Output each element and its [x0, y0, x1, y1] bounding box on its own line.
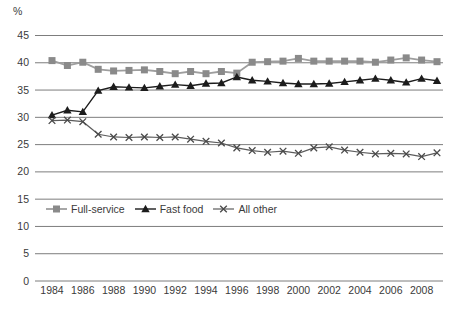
x-tick-label: 2000 [287, 284, 311, 296]
marker-full-service [310, 58, 317, 65]
marker-full-service [403, 54, 410, 61]
y-tick-label: 20 [17, 165, 29, 177]
legend-label: Fast food [160, 203, 204, 215]
x-tick-label: 2002 [318, 284, 342, 296]
x-tick-label: 1992 [164, 284, 188, 296]
marker-full-service [141, 66, 148, 73]
legend-x-marker-icon [213, 203, 234, 215]
y-tick-label: 0 [23, 275, 29, 287]
chart-legend: Full-serviceFast foodAll other [46, 201, 277, 216]
marker-fast-food [63, 106, 71, 113]
x-tick-label: 1998 [256, 284, 280, 296]
x-tick-label: 1986 [71, 284, 95, 296]
legend-item-all-other: All other [213, 203, 277, 215]
x-tick-label: 2004 [348, 284, 372, 296]
x-tick-label: 1994 [194, 284, 218, 296]
x-tick-label: 1996 [225, 284, 249, 296]
marker-full-service [280, 58, 287, 65]
marker-full-service [295, 55, 302, 62]
legend-square-marker-icon [46, 203, 67, 215]
series-line-fast-food [52, 77, 437, 115]
legend-triangle-marker-icon [135, 203, 156, 215]
y-tick-label: 15 [17, 193, 29, 205]
marker-full-service [64, 62, 71, 69]
x-tick-label: 2006 [379, 284, 403, 296]
marker-full-service [126, 67, 133, 74]
legend-item-fast-food: Fast food [135, 203, 204, 215]
marker-full-service [326, 58, 333, 65]
legend-label: All other [238, 203, 277, 215]
y-tick-label: 35 [17, 84, 29, 96]
y-tick-label: 25 [17, 138, 29, 150]
marker-full-service [341, 58, 348, 65]
y-tick-label: 45 [17, 29, 29, 41]
x-tick-label: 1990 [133, 284, 157, 296]
marker-full-service [203, 70, 210, 77]
y-tick-label: 5 [23, 247, 29, 259]
marker-fast-food [171, 80, 179, 87]
marker-full-service [79, 59, 86, 66]
marker-full-service [264, 58, 271, 65]
y-axis-unit-label: % [13, 5, 22, 17]
marker-full-service [95, 66, 102, 73]
x-tick-label: 1988 [102, 284, 126, 296]
x-tick-label: 2008 [410, 284, 434, 296]
marker-full-service [156, 68, 163, 75]
marker-fast-food [371, 74, 379, 81]
line-chart-canvas: 454035302520151050%198419861988199019921… [0, 0, 454, 311]
marker-full-service [172, 70, 179, 77]
y-tick-label: 40 [17, 56, 29, 68]
marker-full-service [218, 68, 225, 75]
marker-full-service [418, 57, 425, 64]
legend-item-full-service: Full-service [46, 203, 125, 215]
series-line-all-other [52, 120, 437, 157]
chart-figure: 454035302520151050%198419861988199019921… [0, 0, 454, 311]
series-line-full-service [52, 58, 437, 74]
y-tick-label: 10 [17, 220, 29, 232]
y-tick-label: 30 [17, 111, 29, 123]
legend-label: Full-service [71, 203, 125, 215]
marker-full-service [187, 68, 194, 75]
marker-full-service [49, 57, 56, 64]
marker-full-service [434, 58, 441, 65]
x-tick-label: 1984 [40, 284, 64, 296]
marker-full-service [110, 67, 117, 74]
marker-full-service [357, 58, 364, 65]
marker-full-service [372, 59, 379, 66]
marker-full-service [249, 59, 256, 66]
marker-full-service [387, 57, 394, 64]
marker-fast-food [417, 74, 425, 81]
